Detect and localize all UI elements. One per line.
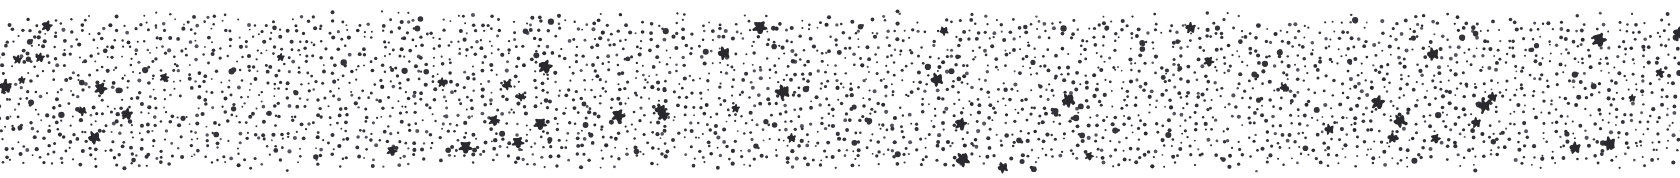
stipple-texture-canvas xyxy=(0,0,1680,178)
stipple-texture-band xyxy=(0,0,1680,178)
